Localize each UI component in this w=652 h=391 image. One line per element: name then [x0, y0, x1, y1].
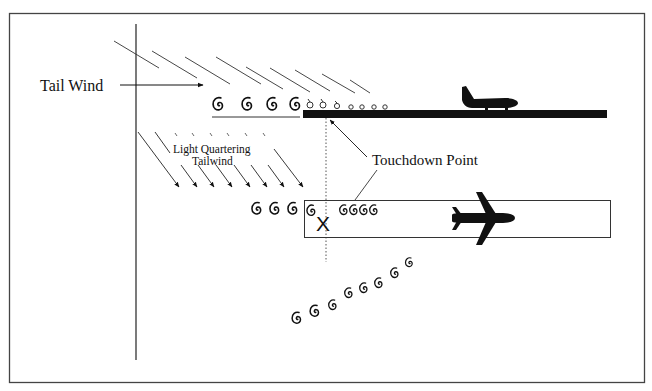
lower-vortices-before-runway	[252, 203, 297, 214]
small-aircraft-icon	[462, 86, 518, 111]
tail-wind-label: Tail Wind	[40, 77, 103, 94]
touchdown-leader-upper	[330, 120, 367, 157]
quartering-wind-ticks	[175, 133, 265, 136]
touchdown-leader-lower	[355, 170, 377, 200]
runway-side-view	[303, 110, 607, 118]
upper-small-vortices	[307, 99, 387, 109]
upper-large-vortices	[213, 98, 299, 110]
touchdown-point-label: Touchdown Point	[372, 152, 479, 168]
drifting-vortices	[292, 258, 412, 323]
wake-turbulence-diagram: Tail Wind	[0, 0, 652, 391]
frame-border	[10, 14, 645, 383]
touchdown-x-marker: X	[316, 212, 330, 235]
